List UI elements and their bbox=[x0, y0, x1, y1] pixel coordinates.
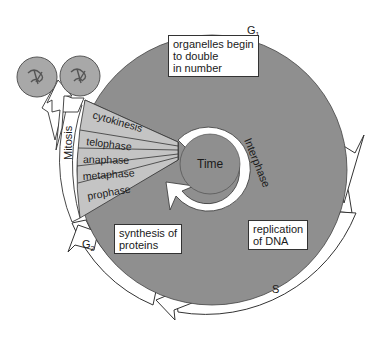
g2-note-box: synthesis of proteins bbox=[114, 224, 182, 254]
g1-note-box: organelles begin to double in number bbox=[168, 35, 259, 77]
time-label: Time bbox=[197, 157, 224, 171]
daughter-cell-1 bbox=[17, 57, 57, 97]
mitosis-label: Mitosis bbox=[62, 125, 74, 160]
stage-anaphase: anaphase bbox=[83, 153, 129, 166]
cell-cycle-diagram: G1 G2 S Time Interphase Mitosis cytokine… bbox=[0, 0, 381, 339]
s-note-box: replication of DNA bbox=[248, 220, 308, 250]
daughter-cell-2 bbox=[60, 56, 100, 96]
s-label: S bbox=[272, 283, 279, 295]
